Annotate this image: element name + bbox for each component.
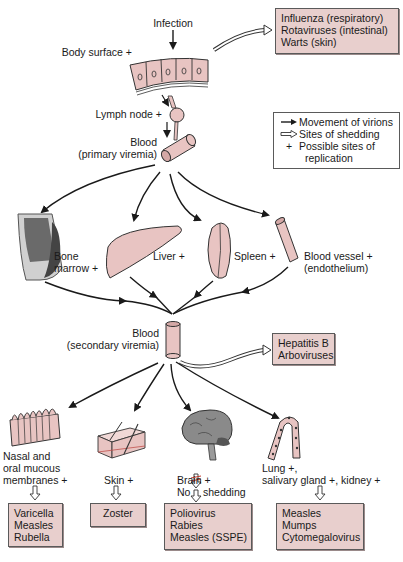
primary-spread-arrows: [42, 165, 268, 220]
blood-vessel-label-2: (endothelium): [304, 262, 368, 274]
mucous-membrane-icon: [10, 409, 60, 446]
shedding-item: Cytomegalovirus: [282, 531, 358, 543]
lung-salivary-icon: [268, 417, 300, 460]
legend-item-replication-cont: replication: [279, 152, 394, 164]
brain-icon: [182, 410, 232, 460]
bone-marrow-label-1: Bone: [54, 250, 79, 262]
plus-icon: +: [279, 140, 299, 152]
blood-vessel-endothelium-icon: [274, 216, 298, 262]
shedding-item: Poliovirus: [170, 507, 246, 519]
solid-arrow-icon: [279, 116, 299, 128]
shedding-item: Measles: [282, 507, 358, 519]
legend: Movement of virions Sites of shedding + …: [273, 112, 400, 169]
spleen-label: Spleen +: [234, 250, 276, 262]
shedding-item: Influenza (respiratory): [281, 12, 393, 24]
no-shedding-label-suffix: shedding: [203, 486, 246, 498]
blood-secondary-label-2: (secondary viremia): [40, 339, 159, 351]
shedding-item: Varicella: [14, 507, 57, 519]
blood-vessel-secondary-icon: [166, 322, 180, 359]
blood-secondary-label-1: Blood: [40, 327, 159, 339]
liver-label: Liver +: [153, 250, 185, 262]
lymph-node-icon: [162, 95, 184, 140]
hollow-arrow-icon: [279, 128, 299, 140]
shedding-box-skin: Zoster: [90, 503, 146, 527]
shedding-item: Measles (SSPE): [170, 531, 246, 543]
shedding-box-surface: Influenza (respiratory) Rotaviruses (int…: [275, 8, 399, 54]
blood-vessel-label-1: Blood vessel +: [304, 250, 373, 262]
lung-label-1: Lung +,: [262, 462, 297, 474]
shedding-item: Rabies: [170, 519, 246, 531]
legend-item-shedding: Sites of shedding: [279, 128, 394, 140]
epithelium-icon: [130, 58, 208, 95]
shedding-item: Rotaviruses (intestinal): [281, 24, 393, 36]
skin-icon: [98, 422, 145, 458]
shedding-box-lung: Measles Mumps Cytomegalovirus: [276, 503, 364, 550]
secondary-spread-arrows: [70, 362, 278, 418]
shedding-box-blood: Hepatitis B Arboviruses: [272, 333, 335, 365]
blood-primary-label-1: Blood: [60, 136, 157, 148]
shedding-arrow-top-icon: [214, 25, 272, 50]
shedding-item: Measles: [14, 519, 57, 531]
shedding-item: Rubella: [14, 531, 57, 543]
shedding-item: Hepatitis B: [278, 337, 329, 349]
no-shedding-label-prefix: No: [177, 486, 190, 498]
infection-label: Infection: [143, 17, 203, 29]
lymph-node-label: Lymph node +: [60, 108, 162, 120]
nasal-label-2: oral mucous: [3, 462, 60, 474]
shedding-item: Arboviruses: [278, 349, 329, 361]
shedding-arrow-secondary-icon: [180, 345, 271, 367]
nasal-label-3: membranes +: [3, 474, 68, 486]
brain-label: Brain +: [177, 474, 211, 486]
bone-marrow-label-2: marrow +: [54, 262, 98, 274]
converging-arrows: [45, 267, 288, 314]
blood-primary-label-2: (primary viremia): [50, 148, 157, 160]
shedding-box-mucous: Varicella Measles Rubella: [8, 503, 63, 547]
spleen-icon: [208, 223, 231, 278]
blood-vessel-primary-icon: [160, 133, 198, 163]
lung-label-2: salivary gland +, kidney +: [262, 474, 380, 486]
skin-label: Skin +: [104, 474, 133, 486]
legend-item-movement: Movement of virions: [279, 116, 394, 128]
legend-item-replication: + Possible sites of: [279, 140, 394, 152]
shedding-item: Mumps: [282, 519, 358, 531]
body-surface-label: Body surface +: [40, 46, 132, 58]
shedding-box-brain: Poliovirus Rabies Measles (SSPE): [164, 503, 252, 550]
shedding-item: Zoster: [96, 507, 140, 519]
nasal-label-1: Nasal and: [3, 450, 50, 462]
shedding-item: Warts (skin): [281, 36, 393, 48]
